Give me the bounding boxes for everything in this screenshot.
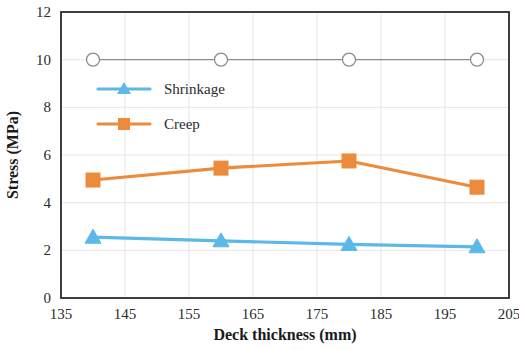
marker-square (214, 161, 228, 175)
x-tick-label: 185 (370, 306, 393, 322)
y-tick-label: 8 (44, 99, 52, 115)
x-tick-label: 145 (114, 306, 137, 322)
x-axis-title: Deck thickness (mm) (213, 326, 356, 344)
marker-square (342, 154, 356, 168)
line-chart: 024681012 135145155165175185195205 Deck … (0, 0, 519, 350)
legend-label: Creep (164, 116, 200, 132)
x-tick-label: 135 (50, 306, 73, 322)
y-tick-label: 0 (44, 290, 52, 306)
y-tick-label: 2 (44, 242, 52, 258)
legend-label: Shrinkage (164, 81, 225, 97)
y-axis-tick-labels: 024681012 (36, 4, 52, 306)
x-axis-tick-labels: 135145155165175185195205 (50, 306, 519, 322)
marker-open-circle (215, 53, 228, 66)
y-tick-label: 4 (44, 195, 52, 211)
x-tick-label: 175 (306, 306, 329, 322)
y-tick-label: 12 (36, 4, 51, 20)
marker-open-circle (343, 53, 356, 66)
marker-square (86, 173, 100, 187)
y-axis-title: Stress (MPa) (4, 111, 22, 199)
x-tick-label: 155 (178, 306, 201, 322)
marker-open-circle (471, 53, 484, 66)
marker-square (470, 180, 484, 194)
x-tick-label: 165 (242, 306, 265, 322)
x-tick-label: 195 (434, 306, 457, 322)
legend-marker-square (118, 118, 130, 130)
y-tick-label: 10 (36, 52, 51, 68)
chart-container: 024681012 135145155165175185195205 Deck … (0, 0, 519, 350)
y-tick-label: 6 (44, 147, 52, 163)
marker-open-circle (87, 53, 100, 66)
x-tick-label: 205 (498, 306, 519, 322)
